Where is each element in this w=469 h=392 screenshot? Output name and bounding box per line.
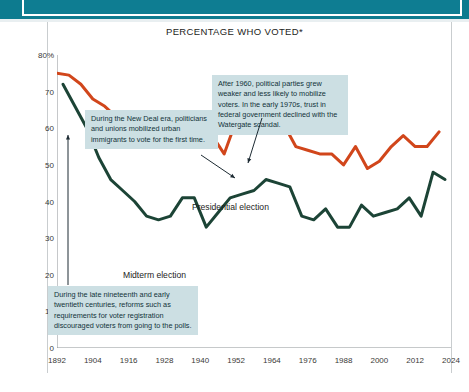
series-label-presidential: Presidential election	[192, 202, 269, 212]
x-axis-tick-label: 1892	[48, 356, 66, 365]
x-axis-tick-label: 1964	[263, 356, 281, 365]
x-axis-tick-label: 2000	[370, 356, 388, 365]
y-axis-tick-label: 20	[45, 270, 54, 279]
series-label-midterm: Midterm election	[123, 270, 186, 280]
y-axis-tick-label: 0	[50, 344, 54, 353]
callout-reforms: During the late nineteenth and early twe…	[48, 286, 198, 335]
top-teal-banner	[0, 0, 469, 22]
x-axis-tick-label: 1928	[156, 356, 174, 365]
y-axis-tick-label: 30	[45, 234, 54, 243]
figure-panel: PERCENTAGE WHO VOTED* 01020304050607080%…	[0, 22, 469, 392]
banner-inner-frame	[22, 0, 462, 16]
x-axis-tick-label: 1988	[335, 356, 353, 365]
x-axis-tick-label: 1940	[191, 356, 209, 365]
callout-new-deal: During the New Deal era, politicians and…	[85, 110, 218, 149]
x-axis-tick-label: 2012	[406, 356, 424, 365]
y-axis-tick-label: 70	[45, 87, 54, 96]
x-axis-tick-label: 2024	[442, 356, 460, 365]
y-axis-tick-label: 40	[45, 197, 54, 206]
panel-right-rule	[451, 22, 452, 373]
x-axis-tick-label: 1976	[299, 356, 317, 365]
x-axis-labels: 1892190419161928194019521964197619882000…	[57, 353, 451, 369]
y-axis-tick-label: 80%	[38, 51, 54, 60]
x-axis-tick-label: 1952	[227, 356, 245, 365]
y-axis-labels: 01020304050607080%	[0, 55, 54, 348]
x-axis-tick-label: 1916	[120, 356, 138, 365]
y-axis-tick-label: 50	[45, 160, 54, 169]
x-axis-tick-label: 1904	[84, 356, 102, 365]
y-axis-tick-label: 60	[45, 124, 54, 133]
chart-title: PERCENTAGE WHO VOTED*	[0, 26, 469, 37]
callout-after-1960: After 1960, political parties grew weake…	[212, 75, 348, 135]
